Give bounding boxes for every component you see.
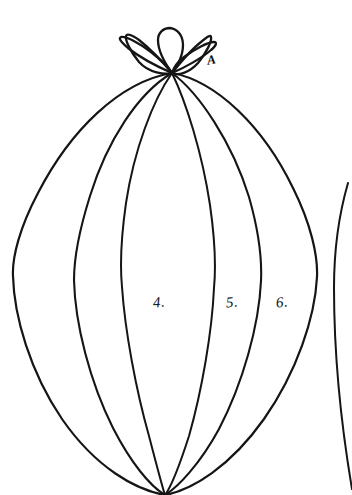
botanical-figure: A 4. 5. 6. — [0, 0, 352, 495]
annotation-label-5: 5. — [225, 294, 238, 312]
annotation-label-6: 6. — [275, 294, 288, 312]
annotation-label-4: 4. — [152, 294, 165, 312]
line-drawing-canvas — [0, 0, 352, 495]
